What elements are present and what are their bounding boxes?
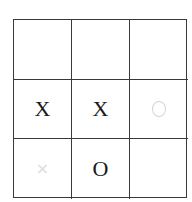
cell-r2-c0[interactable]: × (14, 139, 72, 199)
cell-r1-c2[interactable] (130, 80, 188, 139)
ghost-o-hint-icon (152, 101, 166, 117)
x-mark: X (35, 98, 51, 120)
cell-r2-c2[interactable] (130, 139, 188, 199)
cell-r1-c0[interactable]: X (14, 80, 72, 139)
x-mark: X (93, 98, 109, 120)
o-mark: O (93, 158, 109, 180)
cell-r0-c1[interactable] (72, 20, 130, 80)
tic-tac-toe-board: X X × O (13, 19, 187, 198)
cell-r2-c1[interactable]: O (72, 139, 130, 199)
ghost-x-hint-icon: × (36, 161, 49, 177)
cell-r1-c1[interactable]: X (72, 80, 130, 139)
cell-r0-c0[interactable] (14, 20, 72, 80)
cell-r0-c2[interactable] (130, 20, 188, 80)
